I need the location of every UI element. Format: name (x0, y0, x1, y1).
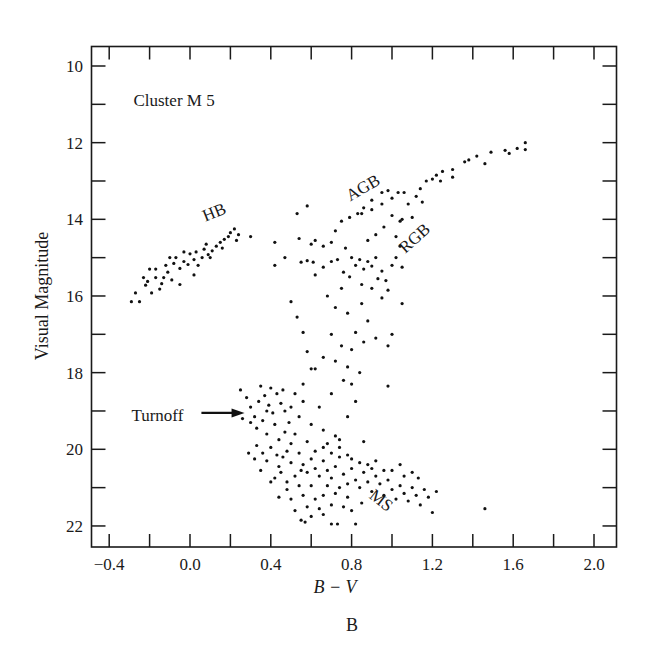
star-point (310, 515, 313, 518)
star-point (154, 276, 157, 279)
star-point (289, 300, 292, 303)
star-point (376, 277, 379, 280)
x-tick-label: 0.4 (260, 555, 282, 574)
star-point (380, 202, 383, 205)
star-point (273, 264, 276, 267)
star-point (326, 294, 329, 297)
star-point (298, 484, 301, 487)
y-tick-label: 12 (66, 134, 83, 153)
star-point (340, 220, 343, 223)
star-point (249, 406, 252, 409)
star-point (277, 496, 280, 499)
star-point (310, 457, 313, 460)
star-point (170, 278, 173, 281)
y-tick-label: 10 (66, 57, 83, 76)
star-point (326, 484, 329, 487)
star-point (314, 450, 317, 453)
star-point (310, 243, 313, 246)
star-point (342, 271, 345, 274)
star-point (374, 233, 377, 236)
star-point (168, 256, 171, 259)
star-point (241, 417, 244, 420)
star-point (370, 208, 373, 211)
x-tick-label: 0.0 (179, 555, 200, 574)
star-point (300, 519, 303, 522)
star-point (354, 522, 357, 525)
star-point (148, 268, 151, 271)
star-point (350, 457, 353, 460)
star-point (386, 289, 389, 292)
star-point (322, 446, 325, 449)
star-point (362, 340, 365, 343)
star-point (302, 494, 305, 497)
color-magnitude-diagram: −0.40.00.40.81.21.62.0 10121416182022 Cl… (0, 0, 648, 667)
plot-frame (92, 47, 617, 548)
star-point (322, 494, 325, 497)
star-point (394, 256, 397, 259)
star-point (322, 266, 325, 269)
star-point (334, 306, 337, 309)
star-point (350, 348, 353, 351)
star-point (382, 225, 385, 228)
star-point (354, 400, 357, 403)
star-point (342, 473, 345, 476)
star-point (370, 287, 373, 290)
star-point (261, 452, 264, 455)
star-point (322, 356, 325, 359)
star-point (314, 467, 317, 470)
star-point (207, 253, 210, 256)
star-point (366, 480, 369, 483)
y-axis-ticks (92, 66, 617, 526)
star-point (287, 421, 290, 424)
star-point (318, 507, 321, 510)
star-point (182, 260, 185, 263)
star-point (516, 147, 519, 150)
star-point (134, 291, 137, 294)
star-point (300, 469, 303, 472)
star-point (334, 434, 337, 437)
star-point (354, 264, 357, 267)
y-axis-title: Visual Magnitude (32, 232, 52, 360)
star-point (144, 284, 147, 287)
star-point (314, 367, 317, 370)
star-point (403, 191, 406, 194)
arrow-head-icon (232, 408, 245, 417)
star-point (302, 331, 305, 334)
star-point (401, 266, 404, 269)
star-point (451, 168, 454, 171)
star-point (306, 350, 309, 353)
star-point (360, 283, 363, 286)
star-point (209, 256, 212, 259)
star-point (370, 199, 373, 202)
star-point (362, 440, 365, 443)
star-point (281, 455, 284, 458)
star-point (249, 235, 252, 238)
star-point (386, 478, 389, 481)
star-point (263, 394, 266, 397)
star-point (277, 438, 280, 441)
star-point (322, 459, 325, 462)
star-point (283, 431, 286, 434)
star-point (401, 302, 404, 305)
star-point (310, 367, 313, 370)
star-point (253, 457, 256, 460)
star-point (330, 476, 333, 479)
star-point (281, 388, 284, 391)
annotation-rgb: RGB (395, 219, 434, 257)
star-point (330, 452, 333, 455)
star-point (390, 197, 393, 200)
star-point (298, 237, 301, 240)
star-point (257, 400, 260, 403)
star-point (312, 261, 315, 264)
star-point (475, 155, 478, 158)
star-point (203, 248, 206, 251)
star-point (298, 415, 301, 418)
x-axis-ticks (109, 47, 594, 548)
star-point (318, 406, 321, 409)
star-point (403, 475, 406, 478)
star-point (304, 521, 307, 524)
star-point (255, 444, 258, 447)
star-point (358, 461, 361, 464)
star-point (350, 383, 353, 386)
star-point (273, 476, 276, 479)
